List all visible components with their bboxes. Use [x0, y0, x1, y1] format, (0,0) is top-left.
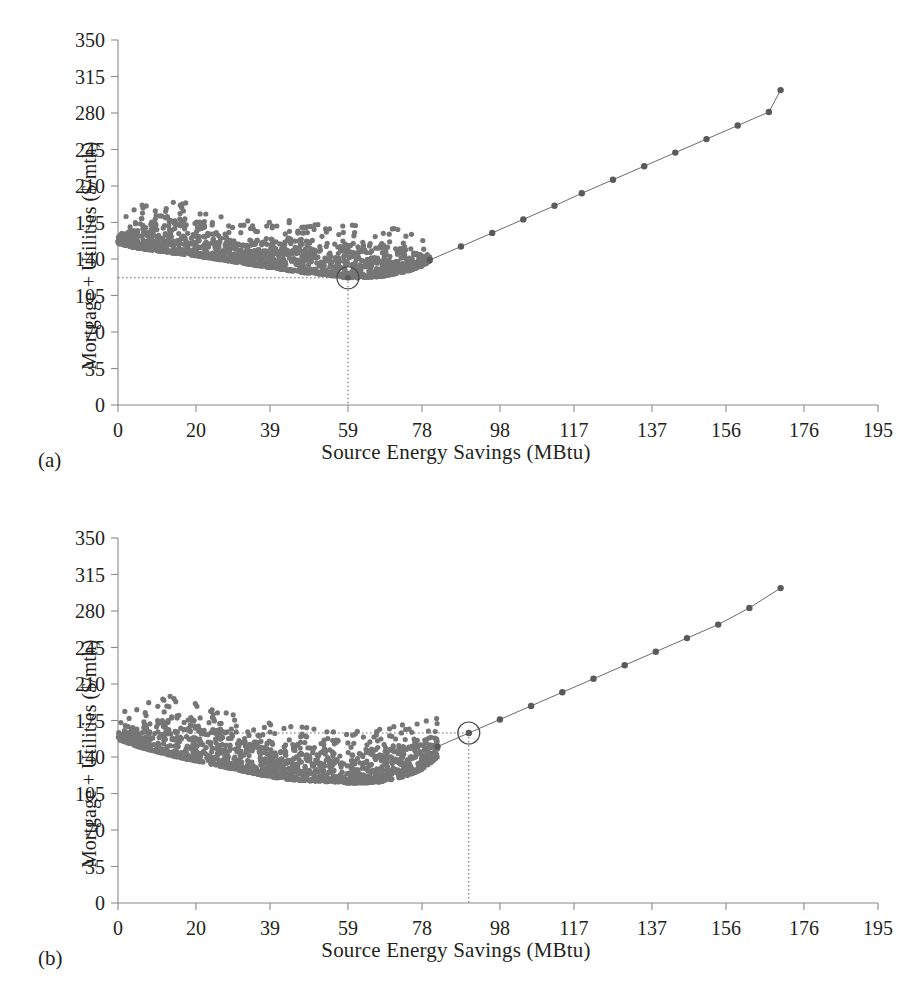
plot-area-a: 0357010514017521024528031535002039597898… [0, 0, 912, 498]
x-tick-label: 137 [637, 917, 667, 939]
x-tick-label: 78 [412, 917, 432, 939]
x-tick-label: 39 [260, 917, 280, 939]
x-tick-label: 20 [186, 419, 206, 441]
y-tick-label: 350 [75, 29, 105, 51]
scatter-cloud [116, 694, 440, 786]
y-tick-label: 280 [75, 102, 105, 124]
x-tick-label: 176 [789, 917, 819, 939]
panel-label-a: (a) [38, 448, 61, 473]
panel-a: 0357010514017521024528031535002039597898… [0, 0, 912, 498]
x-tick-label: 156 [711, 917, 741, 939]
efficiency-frontier-line [438, 588, 781, 747]
y-tick-label: 315 [75, 66, 105, 88]
x-tick-label: 20 [186, 917, 206, 939]
y-tick-label: 0 [95, 892, 105, 914]
x-axis-title-a: Source Energy Savings (MBtu) [0, 440, 912, 465]
x-tick-label: 59 [338, 917, 358, 939]
x-tick-label: 176 [789, 419, 819, 441]
y-tick-label: 315 [75, 564, 105, 586]
x-tick-label: 117 [559, 917, 588, 939]
x-tick-label: 59 [338, 419, 358, 441]
x-tick-label: 0 [113, 917, 123, 939]
x-tick-label: 0 [113, 419, 123, 441]
frontier-markers [427, 87, 784, 263]
x-tick-label: 137 [637, 419, 667, 441]
panel-label-b: (b) [38, 946, 63, 971]
y-tick-label: 280 [75, 600, 105, 622]
x-tick-label: 78 [412, 419, 432, 441]
y-tick-label: 350 [75, 527, 105, 549]
x-tick-label: 195 [863, 419, 893, 441]
y-tick-label: 0 [95, 394, 105, 416]
x-tick-label: 117 [559, 419, 588, 441]
x-tick-label: 98 [490, 917, 510, 939]
y-axis-title-b: Mortgage + Utilities ($/mth) [78, 640, 101, 868]
efficiency-frontier-line [430, 90, 781, 260]
plot-area-b: 0357010514017521024528031535002039597898… [0, 498, 912, 996]
x-tick-label: 39 [260, 419, 280, 441]
scatter-cloud [115, 200, 432, 281]
panel-b: 0357010514017521024528031535002039597898… [0, 498, 912, 996]
figure-container: 0357010514017521024528031535002039597898… [0, 0, 912, 996]
x-axis-title-b: Source Energy Savings (MBtu) [0, 938, 912, 963]
x-tick-label: 195 [863, 917, 893, 939]
x-tick-label: 156 [711, 419, 741, 441]
y-axis-title-a: Mortgage + Utilities ($/mth) [78, 142, 101, 370]
x-tick-label: 98 [490, 419, 510, 441]
